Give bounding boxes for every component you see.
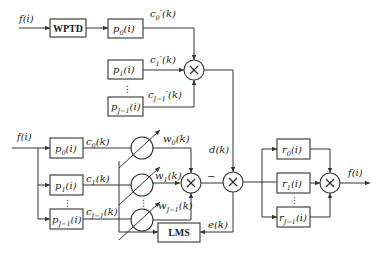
reconstruction-section: r0(i) r1(i) ⋮ rJ−1(i) f(i) <box>243 139 370 227</box>
top-filter-pJ-1: pJ−1(i) <box>108 97 143 116</box>
minus-sign: − <box>207 171 215 182</box>
weight-w0 <box>119 130 160 168</box>
top-filter-p1: p1(i) <box>108 60 143 79</box>
error-multiplier <box>223 172 243 192</box>
top-filter-p0: p0(i) <box>108 19 143 38</box>
bottom-ellipsis: ⋮ <box>63 198 72 208</box>
output-label: f(i) <box>347 167 363 178</box>
bottom-coeff-label-J-1: cJ−1(k) <box>86 206 118 220</box>
recon-filter-rJ-1: rJ−1(i) <box>277 207 310 227</box>
wire-r0-to-mult <box>310 149 330 173</box>
wptd-block: WPTD <box>50 19 86 37</box>
weight-label-J-1: wJ−1(k) <box>158 200 193 214</box>
bottom-filter-p0: p0(i) <box>50 138 83 158</box>
bottom-section: f(i) p0(i) p1(i) ⋮ pJ−1(i) c0(k) c1(k) c… <box>12 130 243 242</box>
desired-label: d(k) <box>209 144 229 155</box>
top-coeff-label-1: c1′(k) <box>150 54 176 68</box>
recon-ellipsis: ⋮ <box>290 195 299 205</box>
recon-multiplier <box>320 173 340 193</box>
bottom-filter-pJ-1: pJ−1(i) <box>50 209 83 229</box>
top-multiplier <box>184 60 204 80</box>
recon-filter-r1: r1(i) <box>277 173 310 193</box>
top-ellipsis: ⋮ <box>123 84 132 94</box>
bottom-multiplier <box>181 173 201 193</box>
top-input-label: f(i) <box>18 13 34 24</box>
weight-ellipsis: ⋮ <box>139 198 148 208</box>
desired-signal-wire <box>204 70 233 172</box>
bottom-input-label: f(i) <box>16 131 32 142</box>
bottom-coeff-label-1: c1(k) <box>86 173 110 187</box>
bottom-coeff-label-0: c0(k) <box>86 136 110 150</box>
weight-label-1: w1(k) <box>155 170 182 184</box>
bottom-filter-p1: p1(i) <box>50 175 83 195</box>
recon-filter-r0: r0(i) <box>277 139 310 159</box>
lms-block: LMS <box>158 223 200 242</box>
lms-label: LMS <box>168 227 190 238</box>
top-coeff-label-J-1: cJ−1′(k) <box>148 89 182 103</box>
wire-rJ-1-to-mult <box>310 193 330 217</box>
block-diagram: f(i) WPTD p0(i) p1(i) ⋮ pJ−1(i) c0′(k) c… <box>0 0 383 256</box>
top-coeff-label-0: c0′(k) <box>150 8 176 22</box>
error-label: e(k) <box>208 219 228 230</box>
wptd-label: WPTD <box>53 23 83 34</box>
weight-label-0: w0(k) <box>163 133 190 147</box>
